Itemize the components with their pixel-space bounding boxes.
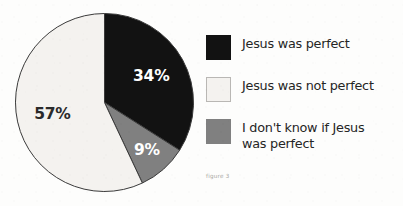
legend-item-jesus-was-not-perfect[interactable]: Jesus was not perfect (206, 76, 396, 102)
legend-label-jesus-was-perfect: Jesus was perfect (242, 34, 350, 52)
legend-label-i-dont-know: I don't know if Jesuswas perfect (242, 118, 364, 151)
legend-swatch-white-icon (206, 77, 231, 102)
pie-chart-svg: 34% 9% 57% (14, 12, 195, 193)
legend-item-jesus-was-perfect[interactable]: Jesus was perfect (206, 34, 396, 60)
pie-label-9-percent: 9% (134, 141, 161, 159)
figure-page: 34% 9% 57% Jesus was perfect Jesus was n… (0, 0, 403, 206)
legend-item-i-dont-know[interactable]: I don't know if Jesuswas perfect (206, 118, 396, 151)
pie-label-57-percent: 57% (34, 105, 71, 123)
legend-swatch-gray-icon (206, 119, 231, 144)
figure-caption: figure 3 (206, 173, 230, 179)
pie-chart: 34% 9% 57% (14, 12, 195, 193)
legend-label-jesus-was-not-perfect: Jesus was not perfect (242, 76, 374, 94)
pie-label-34-percent: 34% (133, 67, 170, 85)
legend: Jesus was perfect Jesus was not perfect … (206, 34, 396, 151)
legend-swatch-black-icon (206, 35, 231, 60)
